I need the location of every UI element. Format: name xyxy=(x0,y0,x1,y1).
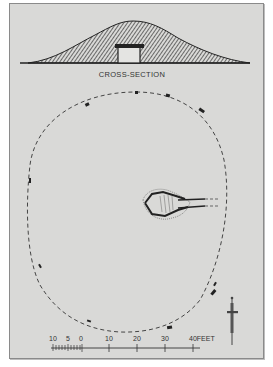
chamber-hatching xyxy=(160,195,173,213)
chamber xyxy=(118,47,140,63)
passage-walls xyxy=(178,199,205,208)
chamber-plan xyxy=(143,189,220,219)
scale-label-0: 0 xyxy=(79,335,83,342)
mound-drawing: CROSS-SECTION xyxy=(0,0,273,367)
scale-label-20: 20 xyxy=(133,335,141,342)
chamber-walls xyxy=(145,192,188,216)
scale-label-5: 5 xyxy=(66,335,70,342)
cross-section: CROSS-SECTION xyxy=(20,21,250,79)
north-arrow-icon xyxy=(227,297,238,345)
kerb-outline xyxy=(27,92,226,332)
capstone xyxy=(115,44,144,48)
kerbstones xyxy=(29,91,217,329)
scale-bar: 10 5 0 10 20 30 40FEET xyxy=(49,335,215,352)
scale-label-10-left: 10 xyxy=(49,335,57,342)
passage-extension xyxy=(205,199,220,206)
scale-label-30: 30 xyxy=(161,335,169,342)
cross-section-label: CROSS-SECTION xyxy=(99,70,165,79)
scale-label-40-feet: 40FEET xyxy=(189,335,215,342)
plan-view xyxy=(27,91,226,332)
scale-label-10: 10 xyxy=(105,335,113,342)
